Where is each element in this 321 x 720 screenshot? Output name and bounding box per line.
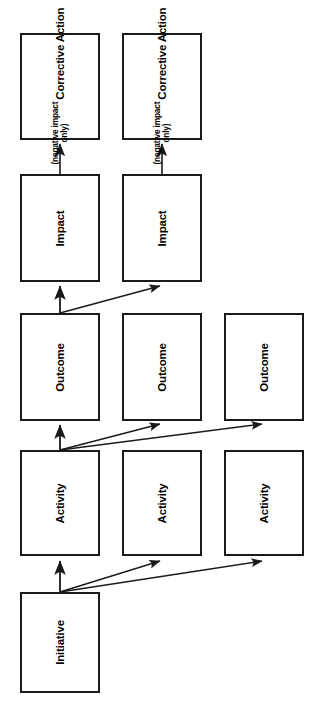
node-corrective-action-2[interactable]: Corrective Action (negative impact only) (122, 33, 202, 140)
edge-activity1-to-outcome2 (60, 424, 160, 450)
node-label: Corrective Action (54, 8, 66, 100)
node-outcome-2[interactable]: Outcome (122, 313, 202, 421)
node-label: Activity (156, 483, 169, 523)
edge-initiative-to-activity3 (60, 561, 262, 592)
node-impact-2[interactable]: Impact (122, 174, 202, 282)
node-activity-1[interactable]: Activity (20, 450, 100, 556)
node-label: Outcome (156, 343, 169, 391)
edge-activity1-to-outcome3 (60, 424, 262, 450)
edge-initiative-to-activity2 (60, 561, 160, 592)
node-label: Activity (54, 483, 67, 523)
node-outcome-3[interactable]: Outcome (224, 313, 304, 421)
node-initiative[interactable]: Initiative (20, 592, 100, 693)
edge-outcome1-to-impact2 (60, 286, 160, 313)
node-outcome-1[interactable]: Outcome (20, 313, 100, 421)
node-activity-3[interactable]: Activity (224, 450, 304, 556)
node-activity-2[interactable]: Activity (122, 450, 202, 556)
node-label: Outcome (258, 343, 271, 391)
node-sublabel: (negative impact only) (51, 102, 69, 165)
node-label: Outcome (54, 343, 67, 391)
node-label: Activity (258, 483, 271, 523)
results-chain-diagram: Corrective Action (negative impact only)… (0, 0, 321, 720)
node-label: Corrective Action (156, 8, 168, 100)
node-sublabel: (negative impact only) (153, 102, 171, 165)
node-impact-1[interactable]: Impact (20, 174, 100, 282)
node-corrective-action-1[interactable]: Corrective Action (negative impact only) (20, 33, 100, 140)
node-label: Initiative (54, 620, 67, 665)
node-label: Impact (54, 210, 67, 246)
node-label: Impact (156, 210, 169, 246)
